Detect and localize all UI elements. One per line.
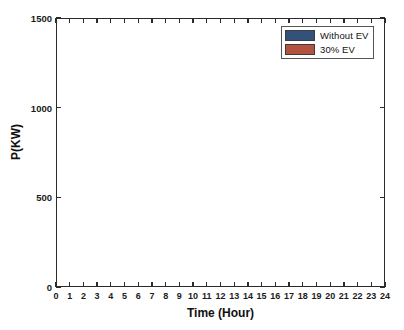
x-tick-mark <box>55 18 56 23</box>
x-tick-label: 1 <box>67 291 72 302</box>
x-tick-label: 4 <box>108 291 113 302</box>
legend-label: 30% EV <box>320 44 355 55</box>
y-axis-title: P(KW) <box>9 102 23 182</box>
x-tick-mark <box>192 282 193 287</box>
x-tick-label: 3 <box>95 291 100 302</box>
legend-item: 30% EV <box>285 44 369 55</box>
x-tick-mark <box>302 18 303 23</box>
x-tick-label: 24 <box>380 291 390 302</box>
x-tick-mark <box>316 282 317 287</box>
legend-color-swatch <box>285 44 315 55</box>
x-tick-mark <box>151 282 152 287</box>
legend-item: Without EV <box>285 30 369 41</box>
y-tick-mark <box>380 107 385 108</box>
x-tick-mark <box>110 282 111 287</box>
x-tick-mark <box>151 18 152 23</box>
x-tick-label: 20 <box>325 291 335 302</box>
x-tick-mark <box>165 282 166 287</box>
x-tick-mark <box>261 282 262 287</box>
x-tick-mark <box>343 282 344 287</box>
x-tick-mark <box>220 18 221 23</box>
x-tick-mark <box>247 18 248 23</box>
y-tick-mark <box>56 286 61 287</box>
x-tick-mark <box>371 282 372 287</box>
x-tick-mark <box>288 282 289 287</box>
x-tick-mark <box>384 18 385 23</box>
x-tick-mark <box>234 282 235 287</box>
x-tick-label: 17 <box>284 291 294 302</box>
x-tick-mark <box>96 18 97 23</box>
x-tick-label: 12 <box>215 291 225 302</box>
x-tick-mark <box>302 282 303 287</box>
x-tick-mark <box>206 18 207 23</box>
x-axis-title: Time (Hour) <box>56 306 385 320</box>
y-tick-mark <box>380 197 385 198</box>
x-tick-mark <box>96 282 97 287</box>
x-tick-label: 16 <box>270 291 280 302</box>
y-tick-mark <box>56 107 61 108</box>
x-tick-label: 5 <box>122 291 127 302</box>
x-tick-mark <box>357 282 358 287</box>
chart-legend: Without EV30% EV <box>281 26 374 59</box>
x-tick-mark <box>261 18 262 23</box>
x-tick-label: 15 <box>257 291 267 302</box>
x-tick-mark <box>357 18 358 23</box>
y-tick-label: 500 <box>12 192 52 203</box>
x-tick-mark <box>316 18 317 23</box>
y-tick-mark <box>56 17 61 18</box>
x-tick-mark <box>83 18 84 23</box>
x-tick-label: 2 <box>81 291 86 302</box>
x-tick-mark <box>138 282 139 287</box>
legend-color-swatch <box>285 30 315 41</box>
x-tick-mark <box>179 282 180 287</box>
x-tick-mark <box>206 282 207 287</box>
x-tick-label: 6 <box>136 291 141 302</box>
x-tick-mark <box>110 18 111 23</box>
y-tick-label: 1500 <box>12 13 52 24</box>
y-tick-mark <box>380 17 385 18</box>
x-tick-label: 13 <box>229 291 239 302</box>
x-tick-mark <box>124 18 125 23</box>
x-tick-mark <box>330 282 331 287</box>
y-tick-mark <box>380 286 385 287</box>
x-tick-label: 0 <box>53 291 58 302</box>
x-tick-mark <box>275 18 276 23</box>
x-tick-label: 11 <box>202 291 212 302</box>
x-tick-mark <box>165 18 166 23</box>
x-tick-mark <box>69 18 70 23</box>
y-tick-label: 1000 <box>12 102 52 113</box>
x-tick-mark <box>247 282 248 287</box>
x-tick-mark <box>220 282 221 287</box>
x-tick-mark <box>275 282 276 287</box>
x-tick-mark <box>83 282 84 287</box>
x-tick-label: 23 <box>366 291 376 302</box>
x-tick-mark <box>288 18 289 23</box>
x-tick-label: 22 <box>353 291 363 302</box>
x-tick-mark <box>69 282 70 287</box>
x-tick-label: 10 <box>188 291 198 302</box>
chart-figure: P(KW) 050010001500 012345678910111213141… <box>0 0 404 330</box>
x-tick-mark <box>330 18 331 23</box>
x-tick-mark <box>179 18 180 23</box>
x-tick-label: 14 <box>243 291 253 302</box>
x-tick-label: 21 <box>339 291 349 302</box>
x-tick-label: 7 <box>149 291 154 302</box>
x-tick-label: 9 <box>177 291 182 302</box>
x-tick-label: 18 <box>298 291 308 302</box>
x-tick-mark <box>138 18 139 23</box>
x-tick-mark <box>124 282 125 287</box>
legend-label: Without EV <box>320 30 369 41</box>
y-tick-label: 0 <box>12 282 52 293</box>
x-tick-label: 19 <box>311 291 321 302</box>
x-tick-label: 8 <box>163 291 168 302</box>
y-tick-mark <box>56 197 61 198</box>
x-tick-mark <box>234 18 235 23</box>
x-tick-mark <box>192 18 193 23</box>
x-tick-mark <box>343 18 344 23</box>
x-tick-mark <box>371 18 372 23</box>
